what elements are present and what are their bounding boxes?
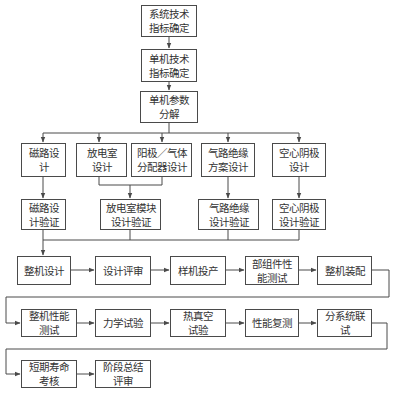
node-subsystem-joint-test: 分系统联试 bbox=[317, 309, 372, 337]
node-stage-review: 阶段总结 评审 bbox=[95, 360, 151, 388]
node-magnetic-verify: 磁路设 计验证 bbox=[21, 199, 66, 230]
node-magnetic-design: 磁路设计 bbox=[21, 143, 66, 177]
node-unit-spec: 单机技术 指标确定 bbox=[141, 49, 197, 82]
node-param-decomposition: 单机参数 分解 bbox=[140, 91, 198, 123]
node-chamber-design: 放电室 设计 bbox=[76, 143, 127, 177]
node-gas-insulation-verify: 气路绝缘 设计验证 bbox=[198, 199, 259, 230]
node-short-life-test: 短期寿命 考核 bbox=[21, 360, 77, 388]
node-component-test: 部组件性 能测试 bbox=[245, 256, 299, 285]
node-thermal-vacuum-test: 热真空 试验 bbox=[170, 309, 226, 337]
node-gas-insulation-design: 气路绝缘 方案设计 bbox=[201, 143, 255, 177]
node-whole-design: 整机设计 bbox=[17, 256, 71, 285]
node-prototype-production: 样机投产 bbox=[170, 256, 226, 285]
node-design-review: 设计评审 bbox=[95, 256, 151, 285]
node-cathode-design: 空心阴极 设计 bbox=[272, 143, 326, 177]
node-chamber-verify: 放电室模块 设计验证 bbox=[100, 199, 161, 230]
node-assembly: 整机装配 bbox=[317, 256, 372, 285]
node-system-spec: 系统技术 指标确定 bbox=[141, 5, 197, 37]
node-mechanical-test: 力学试验 bbox=[95, 309, 151, 337]
node-cathode-verify: 空心阴极 设计验证 bbox=[272, 199, 326, 230]
node-performance-retest: 性能复测 bbox=[245, 309, 299, 337]
flowchart-canvas: 系统技术 指标确定 单机技术 指标确定 单机参数 分解 磁路设计 放电室 设计 … bbox=[0, 0, 399, 403]
node-performance-test: 整机性能 测试 bbox=[21, 309, 77, 337]
node-anode-design: 阳极／气体 分配器设计 bbox=[131, 143, 192, 177]
